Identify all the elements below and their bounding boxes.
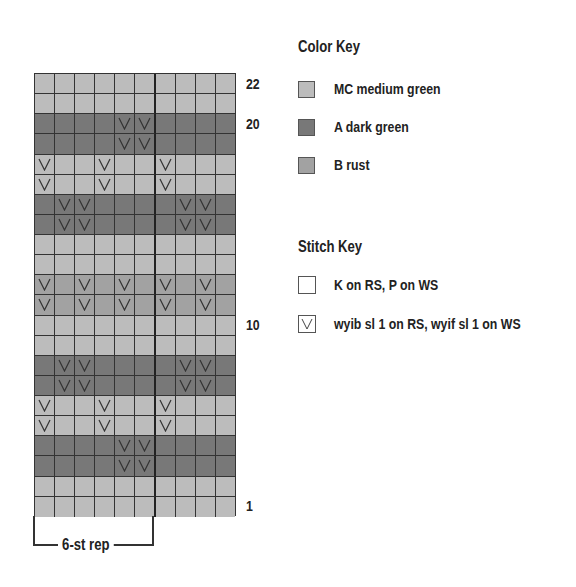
- chart-cell: [156, 74, 176, 94]
- stitch-key-label-slip: wyib sl 1 on RS, wyif sl 1 on WS: [334, 315, 521, 332]
- chart-row-14: [35, 235, 235, 255]
- chart-cell: [156, 456, 176, 476]
- color-key-label-mc: MC medium green: [334, 80, 441, 97]
- slip-stitch-icon: [75, 215, 95, 235]
- slip-stitch-icon: [156, 275, 176, 295]
- chart-cell: [196, 94, 216, 114]
- chart-cell: [115, 255, 135, 275]
- chart-cell: [196, 497, 216, 517]
- chart-cell: [216, 416, 235, 436]
- chart-cell: [135, 74, 156, 94]
- chart-row-6: [35, 396, 235, 416]
- chart-cell: [176, 175, 196, 195]
- chart-cell: [55, 416, 75, 436]
- chart-row-3: [35, 456, 235, 476]
- chart-row-19: [35, 134, 235, 154]
- chart-cell: [75, 396, 95, 416]
- swatch-a: [298, 119, 315, 136]
- chart-cell: [176, 416, 196, 436]
- chart-cell: [115, 316, 135, 336]
- chart-cell: [156, 235, 176, 255]
- row-label-20: 20: [246, 115, 260, 132]
- chart-cell: [196, 316, 216, 336]
- chart-cell: [196, 175, 216, 195]
- chart-cell: [55, 74, 75, 94]
- chart-cell: [95, 74, 115, 94]
- chart-cell: [35, 134, 55, 154]
- chart-cell: [176, 336, 196, 356]
- chart-cell: [156, 134, 176, 154]
- chart-cell: [115, 376, 135, 396]
- slip-stitch-icon: [156, 396, 176, 416]
- chart-cell: [35, 456, 55, 476]
- chart-cell: [135, 195, 156, 215]
- chart-cell: [115, 235, 135, 255]
- chart-cell: [95, 376, 115, 396]
- chart-row-7: [35, 376, 235, 396]
- chart-cell: [156, 477, 176, 497]
- chart-cell: [156, 376, 176, 396]
- chart-cell: [75, 74, 95, 94]
- slip-stitch-icon: [196, 215, 216, 235]
- chart-cell: [216, 235, 235, 255]
- chart-cell: [75, 175, 95, 195]
- chart-cell: [115, 336, 135, 356]
- slip-stitch-icon: [95, 396, 115, 416]
- chart-cell: [135, 416, 156, 436]
- slip-stitch-icon: [135, 134, 156, 154]
- slip-stitch-icon: [196, 275, 216, 295]
- chart-row-22: [35, 74, 235, 94]
- chart-cell: [115, 477, 135, 497]
- slip-stitch-icon: [176, 215, 196, 235]
- row-label-10: 10: [246, 316, 260, 333]
- chart-cell: [176, 275, 196, 295]
- chart-cell: [176, 255, 196, 275]
- chart-cell: [115, 155, 135, 175]
- chart-cell: [196, 255, 216, 275]
- chart-cell: [135, 316, 156, 336]
- chart-cell: [55, 175, 75, 195]
- chart-cell: [156, 436, 176, 456]
- chart-cell: [95, 477, 115, 497]
- chart-cell: [135, 295, 156, 315]
- chart-cell: [95, 356, 115, 376]
- color-key-title: Color Key: [298, 38, 360, 56]
- chart-cell: [196, 456, 216, 476]
- chart-cell: [135, 497, 156, 517]
- chart-cell: [55, 497, 75, 517]
- chart-cell: [135, 175, 156, 195]
- chart-cell: [35, 356, 55, 376]
- chart-cell: [35, 477, 55, 497]
- chart-cell: [216, 134, 235, 154]
- chart-cell: [176, 456, 196, 476]
- chart-cell: [156, 215, 176, 235]
- chart-cell: [55, 436, 75, 456]
- chart-cell: [216, 175, 235, 195]
- chart-cell: [176, 134, 196, 154]
- chart-row-16: [35, 195, 235, 215]
- chart-cell: [95, 275, 115, 295]
- chart-cell: [115, 175, 135, 195]
- slip-stitch-icon: [95, 155, 115, 175]
- slip-stitch-icon: [95, 175, 115, 195]
- chart-cell: [35, 497, 55, 517]
- chart-row-5: [35, 416, 235, 436]
- chart-row-8: [35, 356, 235, 376]
- slip-stitch-icon: [176, 195, 196, 215]
- slip-stitch-icon: [115, 275, 135, 295]
- chart-cell: [216, 295, 235, 315]
- chart-cell: [35, 436, 55, 456]
- slip-stitch-icon: [55, 215, 75, 235]
- slip-stitch-icon: [135, 456, 156, 476]
- chart-cell: [176, 94, 196, 114]
- chart-cell: [35, 235, 55, 255]
- chart-cell: [115, 74, 135, 94]
- chart-cell: [55, 295, 75, 315]
- swatch-b: [298, 157, 315, 174]
- chart-cell: [156, 114, 176, 134]
- chart-cell: [216, 396, 235, 416]
- chart-cell: [55, 275, 75, 295]
- slip-stitch-icon: [156, 416, 176, 436]
- chart-cell: [75, 134, 95, 154]
- chart-cell: [156, 195, 176, 215]
